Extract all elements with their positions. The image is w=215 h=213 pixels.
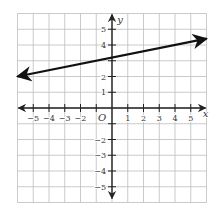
y-axis-label: y <box>116 14 123 25</box>
y-tick-label: −4 <box>94 167 106 176</box>
y-tick-label: 4 <box>101 41 106 50</box>
x-tick-label: 5 <box>188 114 193 123</box>
y-tick-label: −2 <box>94 136 106 145</box>
x-tick-label: −5 <box>27 114 39 123</box>
coordinate-plane: −5−4−3−2123455421−2−3−4−5Oxy <box>0 0 215 213</box>
tick-labels: −5−4−3−2123455421−2−3−4−5Oxy <box>27 14 208 192</box>
x-tick-label: −3 <box>59 114 71 123</box>
x-axis-label: x <box>203 108 209 119</box>
y-tick-label: −3 <box>94 151 106 160</box>
x-tick-label: −2 <box>75 114 87 123</box>
y-tick-label: −5 <box>94 183 106 192</box>
x-tick-label: 2 <box>141 114 146 123</box>
x-tick-label: 4 <box>172 114 177 123</box>
y-tick-label: 2 <box>101 73 106 82</box>
x-tick-label: −4 <box>43 114 55 123</box>
origin-label: O <box>98 112 106 123</box>
y-tick-label: 5 <box>101 25 106 34</box>
x-tick-label: 3 <box>157 114 162 123</box>
y-tick-label: 1 <box>101 88 106 97</box>
x-tick-label: 1 <box>125 114 130 123</box>
